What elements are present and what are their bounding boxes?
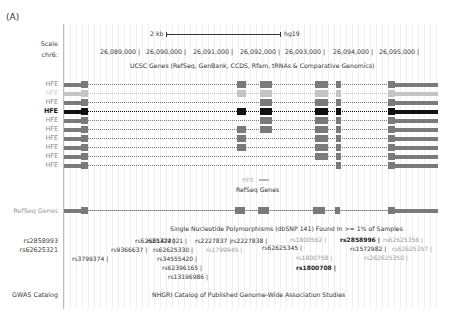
gene-row-label[interactable]: HFE [0,134,58,142]
gene-row-label[interactable]: HFE [0,89,58,97]
exon-block [260,90,272,97]
exon-block [315,108,328,115]
gene-row-label[interactable]: HFE [0,143,58,151]
gene-row[interactable] [64,126,440,133]
gene-row[interactable] [64,99,440,106]
exon-block [235,207,245,214]
exon-block [81,108,88,115]
exon-block [260,99,272,106]
snp-item[interactable]: rs1799945 | [206,246,242,253]
scale-bar-tick-right [280,32,281,37]
exon-block [260,108,272,115]
coordinate: 26,094,000 | [333,48,373,55]
gene-row[interactable] [64,90,440,97]
refseq-track-title[interactable]: RefSeq Genes [236,186,279,193]
intron-line [66,210,438,211]
gwas-track-title[interactable]: NHGRI Catalog of Published Genome-Wide A… [152,291,345,298]
utr-block [64,92,82,96]
utr-block [64,83,82,87]
snp-left-label[interactable]: rs2858993 [0,237,58,245]
exon-block [260,126,272,133]
gene-row-label[interactable]: HFE [0,125,58,133]
utr-block [394,146,438,150]
scale-bar [166,34,280,35]
exon-block [336,126,341,133]
exon-block [237,135,246,142]
intron-line [66,120,438,121]
gwas-left-label[interactable]: GWAS Catalog [0,291,58,299]
exon-block [237,126,246,133]
gene-row-label[interactable]: HFE [0,152,58,160]
coordinate: 26,092,000 | [240,48,280,55]
scale-bar-tick-left [166,32,167,37]
snp-left-label[interactable]: rs62625321 [0,246,58,254]
panel-label: (A) [6,12,19,22]
refseq-hfe-bar [259,179,269,181]
snp-item[interactable]: rs62625345 | [262,244,302,251]
exon-block [315,144,328,151]
snp-item[interactable]: rs62625330 | [153,246,193,253]
snp-item[interactable]: rs2227837 | [195,237,231,244]
intron-line [66,138,438,139]
utr-block [64,164,82,168]
snp-item[interactable]: rs13196986 | [168,273,208,280]
gene-row[interactable] [64,135,440,142]
exon-block [336,99,341,106]
exon-block [81,135,88,142]
utr-block [394,92,438,96]
exon-block [260,81,272,88]
gene-row-label[interactable]: HFE [0,80,58,88]
snp-item[interactable]: rs3799374 | [72,255,108,262]
gene-row[interactable] [64,81,440,88]
gene-row-label[interactable]: HFE [0,98,58,106]
snp-item[interactable]: rs1800758 | [296,254,332,261]
exon-block [81,117,88,124]
gene-row[interactable] [64,153,440,160]
utr-block [64,110,82,114]
refseq-left-label[interactable]: RefSeq Genes [0,207,58,215]
utr-block [64,101,82,105]
exon-block [336,108,341,115]
snp-item[interactable]: rs9366637 | [111,246,147,253]
gene-row[interactable] [64,117,440,124]
intron-line [66,165,438,166]
snp-item[interactable]: rs1800562 | [290,236,326,243]
utr-block [394,128,438,132]
exon-block [315,90,328,97]
snp-item[interactable]: rs1572982 | [350,245,386,252]
exon-block [81,162,88,169]
snp-item[interactable]: rs62625356 | [383,236,423,243]
snp-item[interactable]: rs2227838 | [231,237,267,244]
gene-row-label[interactable]: HFE [0,107,58,115]
snp-item[interactable]: rs262625350 | [364,254,408,261]
gene-row[interactable] [64,108,440,115]
exon-block [336,135,341,142]
snp-item[interactable]: rs62625357 | [392,245,432,252]
ucsc-genes-track-title[interactable]: UCSC Genes (RefSeq, GenBank, CCDS, Rfam,… [130,62,375,69]
intron-line [66,111,438,112]
exon-block [81,207,88,214]
exon-block [81,81,88,88]
snp-item[interactable]: rs62396165 | [162,264,202,271]
exon-block [237,108,246,115]
gene-row[interactable] [64,162,440,169]
coordinate: 26,093,000 | [285,48,325,55]
snp-item[interactable]: rs34555420 | [157,255,197,262]
intron-line [66,84,438,85]
gene-row-label[interactable]: HFE [0,116,58,124]
exon-block [336,90,341,97]
snp-item[interactable]: rs2858996 | [340,236,380,243]
exon-block [315,135,328,142]
intron-line [66,129,438,130]
gene-row[interactable] [64,144,440,151]
gene-row-label[interactable]: HFE [0,161,58,169]
snp-track-title[interactable]: Single Nucleotide Polymorphisms (dbSNP 1… [170,225,403,232]
utr-block [64,119,82,123]
exon-block [336,162,341,169]
exon-block [81,153,88,160]
exon-block [335,207,340,214]
snp-item[interactable]: rs1800708 | [296,264,336,271]
refseq-gene-row[interactable] [64,207,440,214]
assembly-label: hg19 [284,30,300,37]
snp-item[interactable]: rs61472021 | [147,237,187,244]
